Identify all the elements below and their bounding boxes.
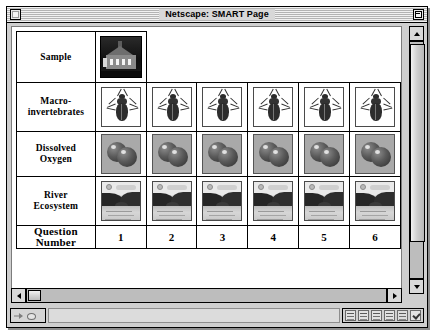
row-label-macro-line1: Macro- (40, 96, 71, 106)
row-label-qnum-line2: Number (36, 236, 76, 248)
table-row-macroinvertebrates: Macro- invertebrates (17, 83, 401, 132)
chevron-left-icon (17, 293, 21, 299)
mail-icon[interactable] (371, 310, 382, 321)
cell-question-number-1[interactable]: 1 (95, 226, 146, 249)
chevron-down-icon (414, 285, 420, 289)
cell-river-2[interactable] (146, 177, 197, 226)
cell-river-6[interactable] (350, 177, 401, 226)
cell-sample-image[interactable] (95, 32, 146, 83)
vertical-scroll-thumb[interactable] (410, 44, 425, 242)
cell-macro-6[interactable] (350, 83, 401, 132)
cell-question-number-3[interactable]: 3 (197, 226, 248, 249)
row-label-do-line1: Dissolved (36, 143, 76, 153)
status-message (48, 308, 340, 323)
cell-question-number-4[interactable]: 4 (248, 226, 299, 249)
cell-question-number-2[interactable]: 2 (146, 226, 197, 249)
cell-macro-2[interactable] (146, 83, 197, 132)
cell-river-3[interactable] (197, 177, 248, 226)
cell-question-number-5[interactable]: 5 (299, 226, 350, 249)
cell-river-4[interactable] (248, 177, 299, 226)
window-title-bar[interactable]: Netscape: SMART Page (7, 7, 427, 23)
browser-window: Netscape: SMART Page Sample (6, 6, 428, 328)
signature-icon[interactable] (358, 310, 369, 321)
row-label-river-line1: River (44, 190, 68, 200)
river-landscape-icon (101, 181, 141, 221)
beetle-icon (101, 87, 141, 127)
row-label-river-line2: Ecosystem (34, 201, 79, 211)
oxygen-molecule-icon (152, 134, 192, 174)
status-toolbar[interactable] (342, 308, 424, 323)
broken-key-icon (27, 313, 36, 320)
close-box-button[interactable] (10, 9, 21, 20)
scroll-left-button[interactable] (11, 288, 26, 303)
horizontal-scrollbar[interactable] (11, 288, 402, 303)
row-label-river-ecosystem: River Ecosystem (17, 177, 96, 226)
cell-oxygen-1[interactable] (95, 132, 146, 177)
edit-icon[interactable] (410, 310, 421, 321)
row-label-macro-line2: invertebrates (28, 107, 84, 117)
river-landscape-icon (304, 181, 344, 221)
beetle-icon (152, 87, 192, 127)
page-icon[interactable] (397, 310, 408, 321)
beetle-icon (253, 87, 293, 127)
newsgroup-icon[interactable] (384, 310, 395, 321)
window-title: Netscape: SMART Page (159, 9, 275, 20)
cell-oxygen-6[interactable] (350, 132, 401, 177)
row-label-sample: Sample (17, 32, 96, 83)
oxygen-molecule-icon (202, 134, 242, 174)
cell-oxygen-2[interactable] (146, 132, 197, 177)
table-row-question-number: Question Number 1 2 3 4 5 6 (17, 226, 401, 249)
cell-macro-1[interactable] (95, 83, 146, 132)
river-landscape-icon (202, 181, 242, 221)
river-landscape-icon (253, 181, 293, 221)
scroll-down-button[interactable] (409, 279, 424, 294)
cell-oxygen-5[interactable] (299, 132, 350, 177)
table-row-sample: Sample (17, 32, 401, 83)
river-landscape-icon (152, 181, 192, 221)
beetle-icon (304, 87, 344, 127)
row-label-dissolved-oxygen: Dissolved Oxygen (17, 132, 96, 177)
smart-page-table: Sample (16, 31, 401, 249)
security-icon[interactable] (345, 310, 356, 321)
row-label-macroinvertebrates: Macro- invertebrates (17, 83, 96, 132)
window-content-area: Sample (7, 23, 427, 327)
horizontal-scroll-thumb[interactable] (28, 290, 41, 301)
zoom-box-button[interactable] (413, 9, 424, 20)
key-icon (14, 313, 23, 319)
vertical-scroll-track[interactable] (409, 41, 424, 279)
oxygen-molecule-icon (304, 134, 344, 174)
school-building-photo-icon (100, 36, 142, 78)
chevron-up-icon (414, 32, 420, 36)
scroll-right-button[interactable] (387, 288, 402, 303)
cell-oxygen-3[interactable] (197, 132, 248, 177)
horizontal-scroll-track[interactable] (26, 288, 387, 303)
cell-oxygen-4[interactable] (248, 132, 299, 177)
cell-macro-5[interactable] (299, 83, 350, 132)
cell-river-1[interactable] (95, 177, 146, 226)
status-bar (10, 307, 424, 324)
vertical-scrollbar[interactable] (409, 26, 424, 294)
cell-macro-4[interactable] (248, 83, 299, 132)
chevron-right-icon (393, 293, 397, 299)
page-canvas: Sample (11, 26, 402, 294)
table-row-dissolved-oxygen: Dissolved Oxygen (17, 132, 401, 177)
oxygen-molecule-icon (355, 134, 395, 174)
security-padlock-indicator[interactable] (10, 308, 46, 323)
oxygen-molecule-icon (253, 134, 293, 174)
scroll-up-button[interactable] (409, 26, 424, 41)
oxygen-molecule-icon (101, 134, 141, 174)
cell-question-number-6[interactable]: 6 (350, 226, 401, 249)
cell-macro-3[interactable] (197, 83, 248, 132)
river-landscape-icon (355, 181, 395, 221)
desktop-background: Netscape: SMART Page Sample (0, 0, 434, 336)
cell-river-5[interactable] (299, 177, 350, 226)
beetle-icon (355, 87, 395, 127)
table-row-river-ecosystem: River Ecosystem (17, 177, 401, 226)
beetle-icon (202, 87, 242, 127)
row-label-question-number: Question Number (17, 226, 96, 249)
row-label-do-line2: Oxygen (40, 154, 72, 164)
